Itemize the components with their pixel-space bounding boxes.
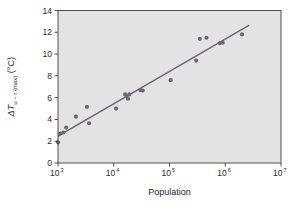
svg-text:6: 6: [228, 167, 231, 173]
y-tick-label: 2: [47, 136, 52, 146]
data-point: [194, 59, 198, 63]
y-tick-label: 0: [47, 158, 52, 168]
y-tick-label: 6: [47, 93, 52, 103]
data-point: [126, 97, 130, 101]
scatter-chart: 103104105106107 02468101214 Population Δ…: [0, 0, 302, 211]
data-point: [85, 105, 89, 109]
data-point: [141, 88, 145, 92]
data-point: [61, 130, 65, 134]
y-tick-label: 4: [47, 114, 52, 124]
data-point: [204, 36, 208, 40]
data-point: [64, 126, 68, 130]
svg-text:10: 10: [50, 168, 60, 178]
data-point: [198, 37, 202, 41]
svg-text:10: 10: [217, 168, 227, 178]
data-point: [114, 106, 118, 110]
svg-text:4: 4: [116, 167, 119, 173]
svg-text:3: 3: [61, 167, 64, 173]
data-point: [169, 78, 173, 82]
svg-text:10: 10: [162, 168, 172, 178]
data-point: [127, 92, 131, 96]
svg-text:10: 10: [106, 168, 116, 178]
plot-area-background: [58, 11, 281, 164]
data-point: [240, 32, 244, 36]
svg-text:5: 5: [172, 167, 175, 173]
svg-text:7: 7: [284, 167, 287, 173]
y-tick-label: 8: [47, 71, 52, 81]
y-tick-label: 14: [43, 6, 53, 16]
chart-figure: 103104105106107 02468101214 Population Δ…: [0, 0, 302, 211]
y-tick-label: 10: [43, 49, 53, 59]
y-tick-label: 12: [43, 27, 53, 37]
x-axis-title: Population: [148, 187, 191, 197]
data-point: [74, 115, 78, 119]
data-point: [221, 41, 225, 45]
data-point: [87, 121, 91, 125]
svg-text:10: 10: [273, 168, 283, 178]
